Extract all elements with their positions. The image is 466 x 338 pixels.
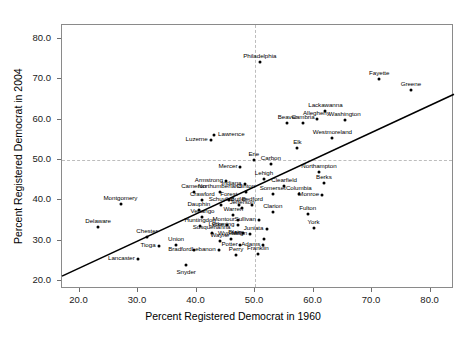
x-axis-tick-mark (196, 288, 197, 292)
data-point (271, 211, 274, 214)
y-axis-tick-mark (57, 199, 61, 200)
data-point (213, 134, 216, 137)
data-point-label: Lawrence (218, 131, 244, 137)
data-point (217, 249, 220, 252)
data-point-label: Franklin (247, 245, 269, 251)
y-axis-tick-mark (57, 38, 61, 39)
data-point-label: Berks (316, 174, 332, 180)
x-axis-tick-label: 30.0 (117, 294, 157, 305)
data-point (249, 233, 252, 236)
x-axis-tick-label: 60.0 (293, 294, 333, 305)
y-axis-tick-mark (57, 78, 61, 79)
data-point-label: Clinton (236, 183, 255, 189)
data-point-label: Union (168, 236, 184, 242)
data-point (209, 138, 212, 141)
y-axis-tick-mark (57, 240, 61, 241)
data-point (257, 218, 260, 221)
y-axis-tick-label: 20.0 (11, 274, 51, 285)
data-point-label: Warren (223, 206, 243, 212)
data-point (220, 204, 223, 207)
data-point-label: Venango (190, 208, 214, 214)
data-point-label: Wayne (210, 232, 229, 238)
data-point-label: Greene (401, 81, 421, 87)
data-point-label: Tioga (141, 242, 156, 248)
data-point (323, 181, 326, 184)
y-axis-tick-label: 40.0 (11, 193, 51, 204)
y-axis-tick-label: 50.0 (11, 153, 51, 164)
x-axis-tick-mark (254, 288, 255, 292)
data-point-label: Chester (136, 228, 157, 234)
x-axis-tick-label: 50.0 (234, 294, 274, 305)
data-point-label: Fulton (299, 205, 316, 211)
data-point (236, 224, 239, 227)
data-point (252, 159, 255, 162)
x-axis-tick-mark (371, 288, 372, 292)
data-point-label: Sullivan (235, 216, 256, 222)
x-axis-tick-mark (79, 288, 80, 292)
data-point-label: Bradford (168, 246, 191, 252)
y-axis-tick-mark (57, 159, 61, 160)
data-point (343, 118, 346, 121)
data-point (185, 263, 188, 266)
plot-area: PhiladelphiaFayetteGreeneLackawannaAlleg… (61, 24, 453, 288)
data-point-label: Northumberland (198, 183, 242, 189)
data-point-label: Monroe (298, 191, 319, 197)
y-axis-tick-label: 80.0 (11, 32, 51, 43)
data-point (239, 165, 242, 168)
y-axis-tick-mark (57, 280, 61, 281)
data-point (258, 61, 261, 64)
data-point-label: Delaware (85, 218, 111, 224)
x-axis-tick-mark (430, 288, 431, 292)
scatter-plot-figure: PhiladelphiaFayetteGreeneLackawannaAlleg… (0, 0, 466, 338)
data-point-label: Washington (329, 111, 361, 117)
data-point (265, 227, 268, 230)
y-axis-tick-label: 30.0 (11, 234, 51, 245)
data-point-label: Fayette (369, 70, 389, 76)
data-point-label: Lackawanna (308, 102, 342, 108)
data-point-label: Lebanon (192, 246, 216, 252)
data-point (331, 137, 334, 140)
data-point (378, 77, 381, 80)
data-point (145, 236, 148, 239)
data-point-label: Lancaster (108, 255, 135, 261)
data-point (137, 257, 140, 260)
x-axis-tick-label: 20.0 (59, 294, 99, 305)
data-point-label: Mercer (218, 163, 237, 169)
data-point-label: Northampton (301, 163, 336, 169)
data-point-label: Cambria (292, 114, 315, 120)
y-axis-tick-label: 60.0 (11, 113, 51, 124)
data-point (244, 191, 247, 194)
data-point-label: Montgomery (104, 195, 138, 201)
y-axis-tick-label: 70.0 (11, 72, 51, 83)
x-axis-tick-label: 40.0 (176, 294, 216, 305)
data-point (302, 121, 305, 124)
data-point (257, 252, 260, 255)
data-point-label: Erie (248, 151, 259, 157)
y-axis-tick-mark (57, 119, 61, 120)
data-point (315, 117, 318, 120)
data-point (262, 237, 265, 240)
x-axis-tick-mark (313, 288, 314, 292)
data-point (119, 203, 122, 206)
data-point (321, 194, 324, 197)
data-point-label: York (308, 219, 320, 225)
data-point-label: Clearfield (271, 177, 297, 183)
data-point (312, 227, 315, 230)
data-point (409, 89, 412, 92)
data-point-label: Carbon (261, 155, 281, 161)
data-point-label: Westmoreland (313, 129, 352, 135)
data-point (262, 178, 265, 181)
data-point (286, 121, 289, 124)
data-point (235, 254, 238, 257)
data-point-label: Philadelphia (243, 53, 276, 59)
x-axis-tick-mark (137, 288, 138, 292)
data-point (271, 193, 274, 196)
x-axis-tick-label: 80.0 (410, 294, 450, 305)
data-point (97, 226, 100, 229)
data-point-label: Somerset (260, 185, 286, 191)
data-point-label: Elk (293, 139, 301, 145)
x-axis-title: Percent Registered Democrat in 1960 (0, 310, 466, 322)
data-point-label: Snyder (177, 269, 196, 275)
data-point (269, 163, 272, 166)
data-point-label: Luzerne (186, 136, 208, 142)
